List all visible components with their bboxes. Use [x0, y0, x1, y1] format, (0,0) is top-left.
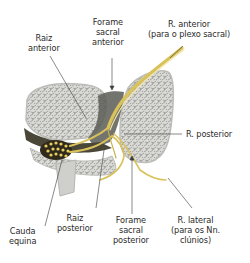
label-forame-sacral-posterior: Forame sacral posterior: [113, 215, 149, 245]
label-r-anterior: R. anterior (para o plexo sacral): [148, 19, 230, 39]
label-r-posterior: R. posterior: [186, 129, 232, 139]
label-raiz-posterior: Raiz posterior: [57, 213, 93, 233]
label-forame-sacral-anterior: Forame sacral anterior: [92, 17, 124, 47]
spinous-process: [56, 160, 76, 196]
label-cauda-equina: Cauda equina: [9, 226, 36, 246]
cauda-equina-bundle: [40, 140, 72, 160]
label-r-lateral: R. lateral (para os Nn. clúnios): [171, 215, 220, 245]
leader-r-lateral: [168, 178, 192, 208]
sacral-foramen-diagram: Raiz anterior Forame sacral anterior R. …: [0, 0, 250, 263]
label-raiz-anterior: Raiz anterior: [28, 33, 60, 53]
